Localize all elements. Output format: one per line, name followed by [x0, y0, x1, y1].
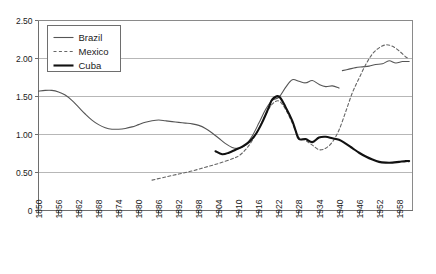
- x-tick-label: 1922: [274, 199, 284, 218]
- x-tick-label: 1850: [34, 199, 44, 218]
- line-chart: 00.501.001.502.002.50 185018561862186818…: [0, 0, 436, 274]
- x-tick-label: 1952: [375, 199, 385, 218]
- x-tick-label: 1904: [214, 199, 224, 218]
- x-tick-label: 1934: [315, 199, 325, 218]
- x-tick-label: 1946: [355, 199, 365, 218]
- y-tick-label: 0.50: [16, 168, 33, 178]
- x-tick-label: 1958: [395, 199, 405, 218]
- y-tick-label: 0: [28, 206, 33, 216]
- y-tick-label: 2.50: [16, 16, 33, 26]
- x-tick-label: 1886: [154, 199, 164, 218]
- x-tick-label: 1898: [194, 199, 204, 218]
- x-tick-label: 1856: [54, 199, 64, 218]
- x-tick-label: 1868: [94, 199, 104, 218]
- x-tick-label: 1910: [234, 199, 244, 218]
- x-tick-label: 1880: [134, 199, 144, 218]
- x-tick-label: 1940: [335, 199, 345, 218]
- x-tick-label: 1892: [174, 199, 184, 218]
- chart-legend: BrazilMexicoCuba: [48, 26, 121, 72]
- y-tick-label: 2.00: [16, 54, 33, 64]
- x-tick-label: 1862: [74, 199, 84, 218]
- series-line-cuba: [215, 96, 409, 163]
- legend-label-cuba: Cuba: [79, 60, 102, 71]
- chart-container: 00.501.001.502.002.50 185018561862186818…: [0, 0, 436, 274]
- x-axis-labels: 1850185618621868187418801886189218981904…: [34, 199, 405, 218]
- x-tick-label: 1874: [114, 199, 124, 218]
- x-tick-label: 1916: [254, 199, 264, 218]
- legend-label-brazil: Brazil: [79, 32, 103, 43]
- x-tick-label: 1928: [294, 199, 304, 218]
- legend-label-mexico: Mexico: [79, 46, 109, 57]
- series-line-brazil: [39, 80, 340, 149]
- y-axis-labels: 00.501.001.502.002.50: [16, 16, 33, 216]
- y-tick-label: 1.50: [16, 92, 33, 102]
- y-tick-label: 1.00: [16, 130, 33, 140]
- series-line-brazil: [342, 61, 409, 71]
